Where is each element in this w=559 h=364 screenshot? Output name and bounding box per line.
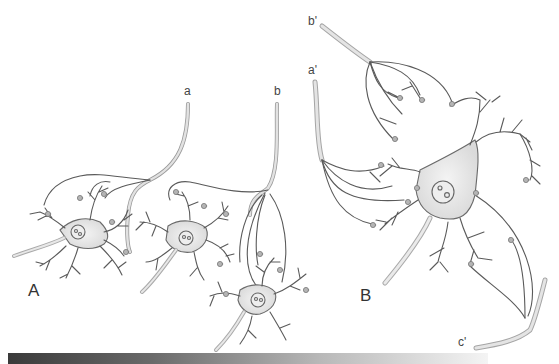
axon-a-prime xyxy=(315,82,404,224)
bottom-gradient-bar xyxy=(8,353,488,364)
axon-label-c-prime: c' xyxy=(458,335,466,349)
panel-label-b: B xyxy=(360,286,371,306)
axon-label-b-prime: b' xyxy=(308,14,317,28)
axon-label-a-prime: a' xyxy=(308,63,317,77)
panel-label-a: A xyxy=(28,281,39,301)
axon-label-b: b xyxy=(274,84,281,98)
neuron-a1 xyxy=(14,186,132,278)
neuron-a2 xyxy=(136,192,234,292)
neuron-b xyxy=(376,92,540,283)
panel-b xyxy=(315,26,545,348)
neuron-a3 xyxy=(210,258,306,350)
axon-label-a: a xyxy=(184,84,191,98)
axon-c-prime xyxy=(470,195,545,348)
neuron-convergence-divergence-figure: a b A a' b' c' B xyxy=(0,0,559,364)
panel-a xyxy=(14,104,309,350)
axon-b-prime xyxy=(322,26,452,140)
